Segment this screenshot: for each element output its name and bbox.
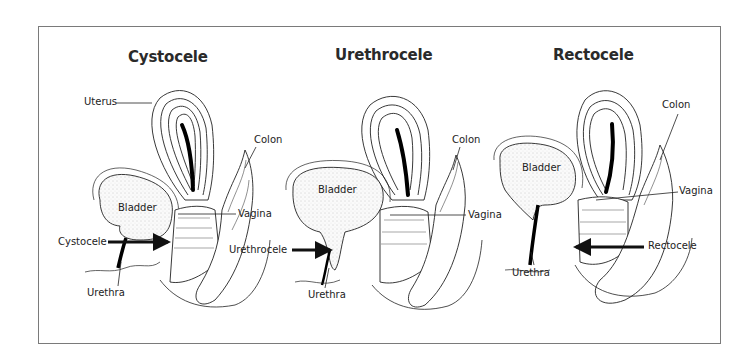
bladder-shape: [293, 167, 383, 270]
panel-title-rectocele: Rectocele: [553, 46, 634, 64]
label-urethra: Urethra: [87, 287, 125, 298]
label-urethra: Urethra: [512, 267, 550, 278]
label-vagina: Vagina: [468, 209, 502, 220]
label-uterus: Uterus: [84, 96, 117, 107]
label-urethra: Urethra: [308, 289, 346, 300]
label-bladder: Bladder: [522, 162, 561, 173]
label-cystocele: Cystocele: [58, 236, 107, 247]
label-vagina: Vagina: [238, 208, 272, 219]
label-urethrocele: Urethrocele: [229, 244, 287, 255]
uterus-shape: [577, 91, 642, 200]
panel-title-urethrocele: Urethrocele: [335, 46, 432, 64]
uterus-shape: [152, 91, 214, 200]
label-bladder: Bladder: [318, 184, 357, 195]
urethrocele-illustration: [286, 96, 482, 309]
label-bladder: Bladder: [118, 202, 157, 213]
label-colon: Colon: [254, 134, 282, 145]
cystocele-illustration: [85, 91, 270, 307]
panel-title-cystocele: Cystocele: [128, 48, 208, 66]
label-colon: Colon: [452, 134, 480, 145]
label-vagina: Vagina: [679, 185, 713, 196]
label-colon: Colon: [662, 99, 690, 110]
label-rectocele: Rectocele: [648, 240, 697, 251]
